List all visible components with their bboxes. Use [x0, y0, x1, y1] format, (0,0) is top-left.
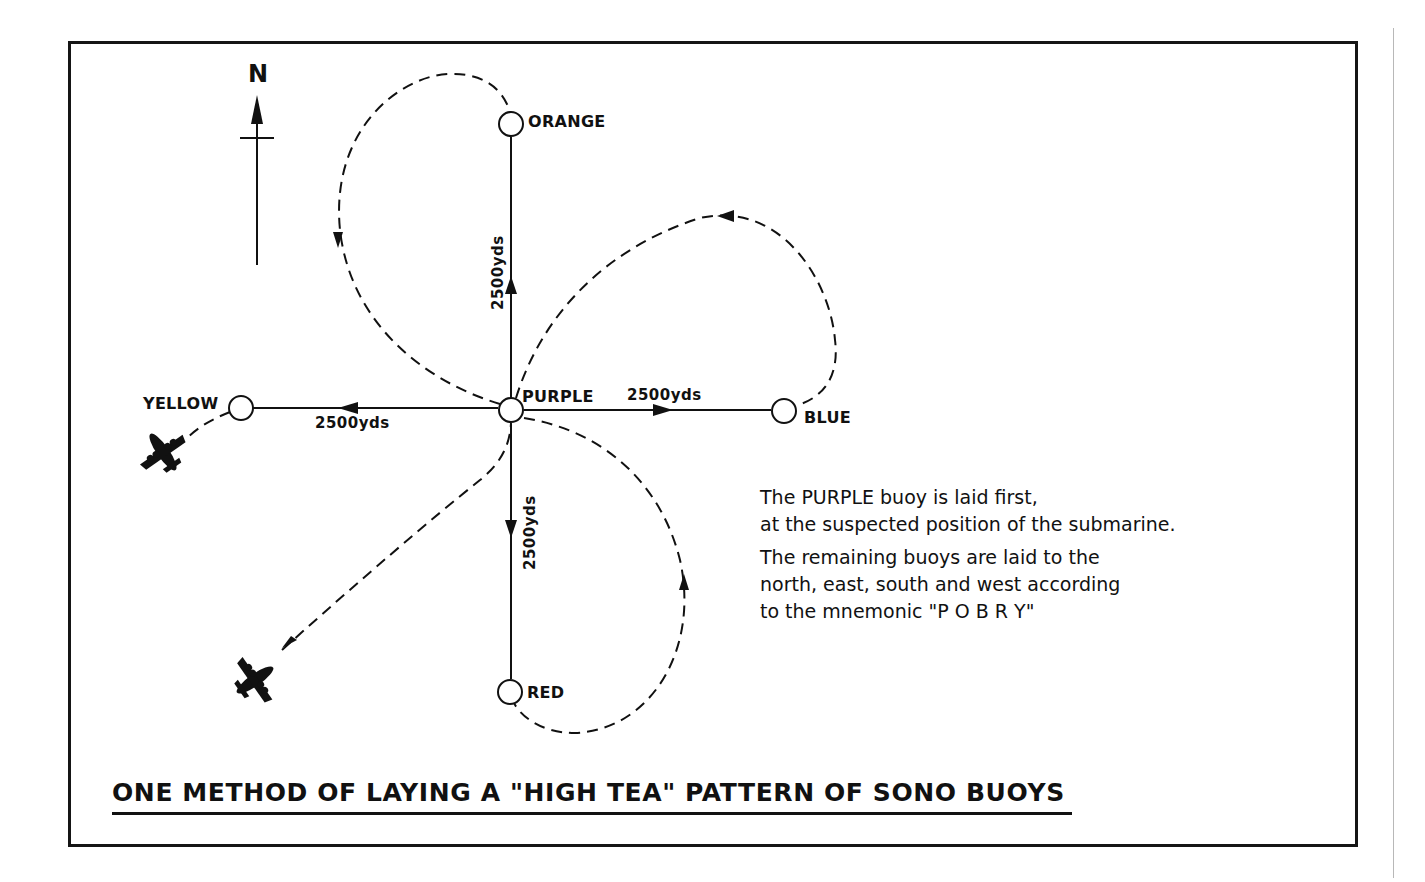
- aircraft-icon: [222, 646, 288, 714]
- caption-line: at the suspected position of the submari…: [760, 511, 1176, 538]
- caption-line: The PURPLE buoy is laid first,: [760, 484, 1176, 511]
- buoy-label-yellow: YELLOW: [143, 394, 218, 413]
- caption-line: The remaining buoys are laid to the: [760, 544, 1176, 571]
- diagram-canvas: N ORANGE PURPLE BLUE RED YELLOW 2500yds …: [0, 0, 1425, 882]
- aircraft-icon: [129, 419, 197, 485]
- buoy-yellow-icon: [229, 396, 253, 420]
- buoy-blue-icon: [772, 399, 796, 423]
- buoy-label-purple: PURPLE: [522, 387, 594, 406]
- north-label: N: [248, 60, 268, 88]
- buoy-label-blue: BLUE: [804, 408, 851, 427]
- buoy-red-icon: [498, 680, 522, 704]
- diagram-title: ONE METHOD OF LAYING A "HIGH TEA" PATTER…: [112, 778, 1065, 807]
- distance-north: 2500yds: [489, 235, 507, 310]
- title-underline: [112, 812, 1072, 815]
- distance-east: 2500yds: [627, 386, 702, 404]
- buoy-label-red: RED: [527, 683, 564, 702]
- buoy-orange-icon: [499, 112, 523, 136]
- caption-text: The PURPLE buoy is laid first, at the su…: [760, 484, 1176, 625]
- caption-line: to the mnemonic "P O B R Y": [760, 598, 1176, 625]
- north-arrow-icon: [240, 95, 274, 265]
- distance-south: 2500yds: [521, 495, 539, 570]
- distance-west: 2500yds: [315, 414, 390, 432]
- caption-line: north, east, south and west according: [760, 571, 1176, 598]
- buoy-purple-icon: [499, 398, 523, 422]
- buoy-label-orange: ORANGE: [528, 112, 606, 131]
- pattern-drawing: [0, 0, 1425, 882]
